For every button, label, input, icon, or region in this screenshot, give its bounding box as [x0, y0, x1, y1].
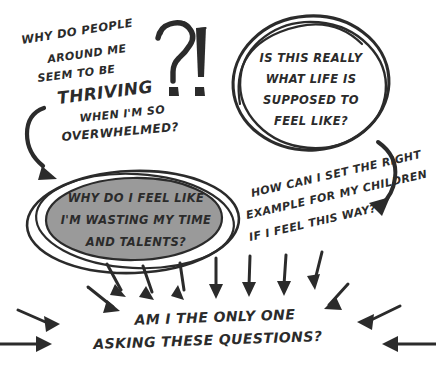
bottom-line-1: AM I THE ONLY ONE [133, 306, 295, 328]
svg-text:OVERWHELMED?: OVERWHELMED? [61, 120, 179, 144]
svg-text:FEEL LIKE?: FEEL LIKE? [274, 114, 348, 128]
ellipse-line-1: WHY DO I FEEL LIKE [68, 191, 205, 205]
svg-text:AND TALENTS?: AND TALENTS? [85, 235, 186, 249]
lower-right-inward-arrows [324, 284, 436, 352]
tl-line-2: AROUND ME [46, 42, 128, 66]
exclamation-mark-glyph [195, 27, 206, 96]
circle-line-2: WHAT LIFE IS [266, 72, 357, 86]
bottom-line-2: ASKING THESE QUESTIONS? [92, 328, 323, 352]
svg-text:ASKING THESE QUESTIONS?: ASKING THESE QUESTIONS? [92, 328, 323, 352]
svg-text:I'M WASTING MY TIME: I'M WASTING MY TIME [61, 213, 212, 227]
circle-question-text: IS THIS REALLY WHAT LIFE IS SUPPOSED TO … [259, 51, 363, 128]
top-left-question-text: WHY DO PEOPLE AROUND ME SEEM TO BE THRIV… [20, 15, 179, 144]
svg-text:SUPPOSED TO: SUPPOSED TO [263, 93, 359, 107]
svg-text:AROUND ME: AROUND ME [46, 42, 128, 66]
bottom-question-text: AM I THE ONLY ONE ASKING THESE QUESTIONS… [92, 306, 323, 352]
circle-line-3: SUPPOSED TO [263, 93, 359, 107]
ellipse-line-3: AND TALENTS? [85, 235, 186, 249]
svg-text:IS THIS REALLY: IS THIS REALLY [259, 51, 363, 65]
svg-text:AM I THE ONLY ONE: AM I THE ONLY ONE [133, 306, 295, 328]
circle-line-1: IS THIS REALLY [259, 51, 363, 65]
question-mark-glyph [158, 22, 193, 96]
tl-line-4-emphasis: THRIVING [56, 76, 154, 108]
svg-text:THRIVING: THRIVING [56, 76, 154, 108]
tl-line-6: OVERWHELMED? [61, 120, 179, 144]
ellipse-line-2: I'M WASTING MY TIME [61, 213, 212, 227]
right-question-text: HOW CAN I SET THE RIGHT EXAMPLE FOR MY C… [245, 148, 429, 244]
sketch-diagram-canvas: WHY DO PEOPLE AROUND ME SEEM TO BE THRIV… [0, 0, 436, 377]
svg-text:WHY DO I FEEL LIKE: WHY DO I FEEL LIKE [68, 191, 205, 205]
diagram-artwork: WHY DO PEOPLE AROUND ME SEEM TO BE THRIV… [0, 0, 436, 377]
left-curved-arrow [27, 108, 57, 180]
svg-text:WHAT LIFE IS: WHAT LIFE IS [266, 72, 357, 86]
circle-line-4: FEEL LIKE? [274, 114, 348, 128]
